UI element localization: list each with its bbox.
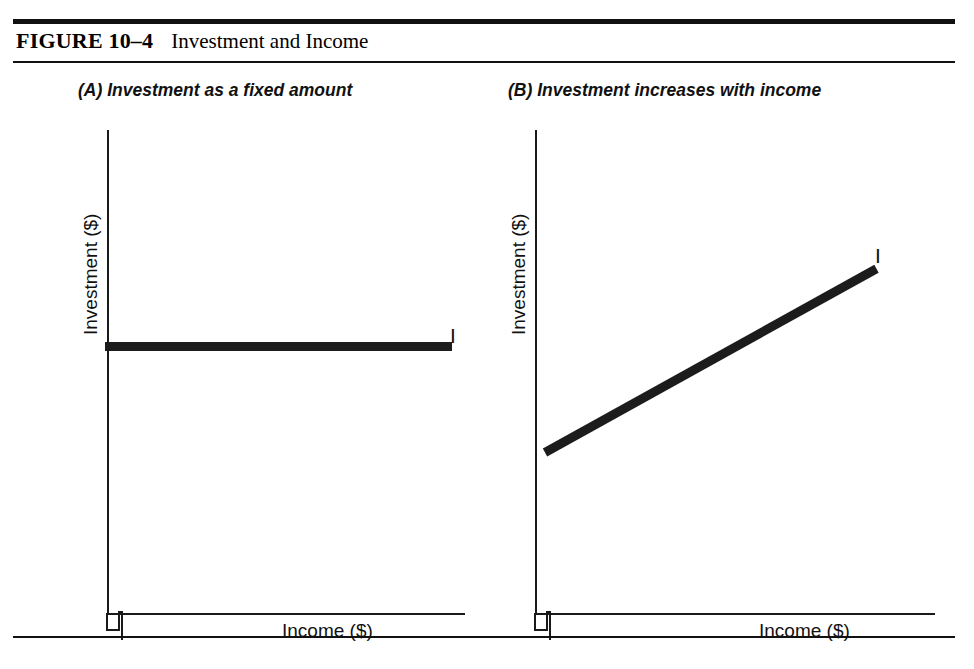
title-underline-rule xyxy=(13,61,955,63)
panel-b-y-axis-label: Investment ($) xyxy=(508,214,530,335)
panel-b-x-axis-label: Income ($) xyxy=(759,620,850,642)
top-thick-rule xyxy=(13,19,955,24)
figure-container: FIGURE 10–4 Investment and Income (A) In… xyxy=(0,0,974,669)
figure-caption: Investment and Income xyxy=(171,29,368,54)
panel-b-investment-line-label: I xyxy=(875,245,881,266)
panel-a-y-axis xyxy=(107,130,109,615)
panel-a-caption: (A) Investment as a fixed amount xyxy=(78,80,352,101)
panel-a-investment-line-label: I xyxy=(450,325,456,346)
panel-b-x-axis-break-icon xyxy=(530,592,570,640)
panel-a-chart: Investment ($) Income ($) I xyxy=(40,120,480,620)
panel-a-x-axis xyxy=(107,613,465,615)
panel-a-x-axis-break-icon xyxy=(102,592,142,640)
panel-a-y-axis-label: Investment ($) xyxy=(80,214,102,335)
panel-b-chart: Investment ($) Income ($) I xyxy=(470,120,950,620)
figure-title: FIGURE 10–4 Investment and Income xyxy=(16,28,368,58)
panel-b-y-axis xyxy=(535,130,537,615)
panel-b-caption: (B) Investment increases with income xyxy=(508,80,821,101)
panel-b-investment-line xyxy=(543,265,879,457)
panel-a-x-axis-label: Income ($) xyxy=(282,620,373,642)
figure-number: FIGURE 10–4 xyxy=(16,28,153,54)
panel-a-investment-line xyxy=(105,342,452,351)
panel-b-x-axis xyxy=(535,613,935,615)
bottom-rule xyxy=(13,636,955,638)
